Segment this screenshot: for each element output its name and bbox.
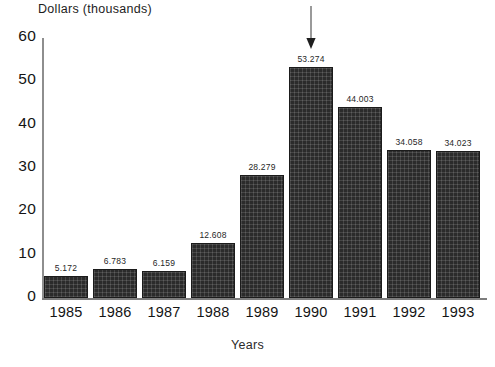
bar-slot: 6.159 xyxy=(142,38,186,298)
y-axis-tick-label: 40 xyxy=(6,114,36,132)
y-axis-tick-label: 10 xyxy=(6,244,36,262)
bar[interactable] xyxy=(93,269,137,298)
bar[interactable] xyxy=(338,107,382,298)
x-axis-tick-label: 1989 xyxy=(237,304,287,320)
x-axis-tick-label: 1988 xyxy=(188,304,238,320)
bar[interactable] xyxy=(387,150,431,298)
bar[interactable] xyxy=(191,243,235,298)
bar-value-label: 28.279 xyxy=(228,162,296,172)
bar-slot: 28.279 xyxy=(240,38,284,298)
bar-value-label: 12.608 xyxy=(179,230,247,240)
x-axis-tick-label: 1991 xyxy=(335,304,385,320)
down-arrow-icon xyxy=(305,6,317,50)
y-axis-tick-label: 60 xyxy=(6,27,36,45)
y-axis-tick-label: 0 xyxy=(6,287,36,305)
y-axis-tick-label: 30 xyxy=(6,157,36,175)
x-axis-tick-label: 1990 xyxy=(286,304,336,320)
bar[interactable] xyxy=(44,276,88,298)
y-axis-tick-label: 50 xyxy=(6,70,36,88)
y-axis-title: Dollars (thousands) xyxy=(38,2,152,16)
y-axis-tick-label: 20 xyxy=(6,200,36,218)
x-axis-tick-label: 1992 xyxy=(384,304,434,320)
bar-slot: 53.274 xyxy=(289,38,333,298)
bar[interactable] xyxy=(142,271,186,298)
bar-value-label: 44.003 xyxy=(326,94,394,104)
bar-slot: 34.023 xyxy=(436,38,480,298)
x-axis-tick-label: 1985 xyxy=(41,304,91,320)
bar-value-label: 34.023 xyxy=(424,138,492,148)
bar-slot: 44.003 xyxy=(338,38,382,298)
x-axis-tick-label: 1987 xyxy=(139,304,189,320)
x-axis-title: Years xyxy=(0,338,495,352)
x-axis-line xyxy=(42,298,487,300)
x-axis-tick-label: 1993 xyxy=(433,304,483,320)
bar[interactable] xyxy=(436,151,480,298)
plot-area: 5.1726.7836.15912.60828.27953.27444.0033… xyxy=(44,38,485,298)
bar-slot: 34.058 xyxy=(387,38,431,298)
bar-value-label: 53.274 xyxy=(277,54,345,64)
bar[interactable] xyxy=(240,175,284,298)
x-axis-tick-label: 1986 xyxy=(90,304,140,320)
bar-value-label: 6.159 xyxy=(130,258,198,268)
bar-chart: Dollars (thousands) 0102030405060 5.1726… xyxy=(0,0,495,367)
